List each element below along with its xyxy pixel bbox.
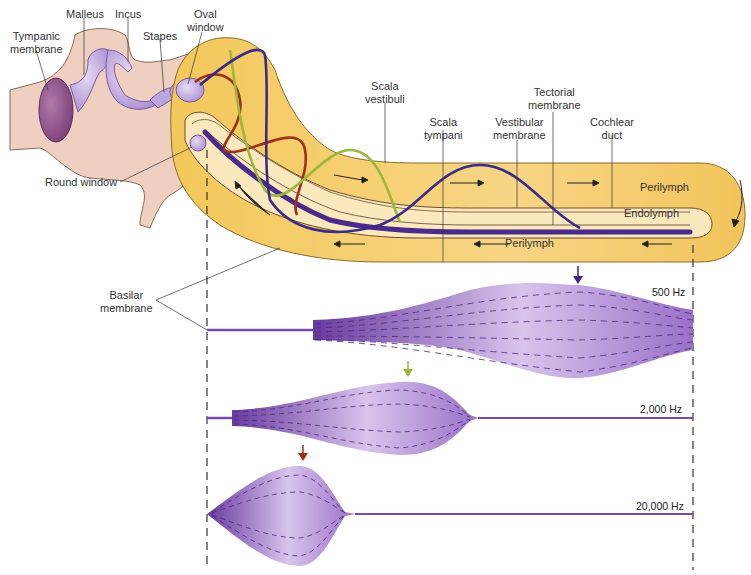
oval-window [176,78,204,102]
envelope-500hz [207,283,693,378]
envelope-20000hz [207,466,693,566]
label-500hz: 500 Hz [652,286,685,298]
label-basilar-membrane: Basilar membrane [100,289,153,315]
label-tectorial-membrane: Tectorial membrane [528,86,581,112]
label-20000hz: 20,000 Hz [636,500,684,512]
label-endolymph: Endolymph [624,207,679,220]
label-cochlear-duct: Cochlear duct [590,116,634,142]
label-vestibular-membrane: Vestibular membrane [493,116,546,142]
arrow-20000hz [298,453,308,461]
round-window [190,135,206,151]
label-perilymph-top: Perilymph [640,181,689,194]
envelope-2000hz [207,382,693,455]
label-2000hz: 2,000 Hz [640,403,682,415]
label-scala-vestibuli: Scala vestibuli [365,80,405,106]
label-round-window: Round window [45,176,117,189]
arrow-500hz [573,276,583,284]
label-incus: Incus [115,8,141,21]
label-malleus: Malleus [66,8,104,21]
arrow-2000hz [403,369,413,377]
cochlea-body [171,38,745,262]
label-tympanic-membrane: Tympanic membrane [10,30,63,56]
label-stapes: Stapes [143,30,177,43]
label-oval-window: Oval window [187,8,224,34]
label-perilymph-bottom: Perilymph [505,237,554,250]
label-scala-tympani: Scala tympani [424,116,463,142]
tympanic-membrane [39,78,73,142]
